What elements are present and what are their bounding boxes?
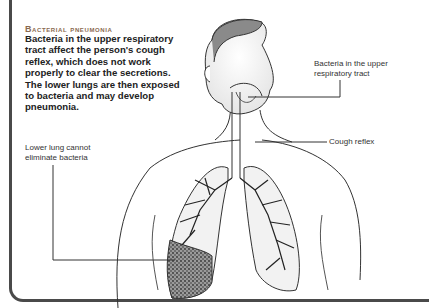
right-lung [167,167,232,299]
torso-outline [117,140,361,308]
head-drawing [205,19,274,114]
left-lung [240,166,299,290]
label-upper-tract: Bacteria in the upper respiratory tract [314,59,404,78]
label-lower-lung: Lower lung cannot eliminate bacteria [25,143,105,162]
label-cough-reflex: Cough reflex [329,137,374,147]
leader-lower-lung [53,165,175,260]
